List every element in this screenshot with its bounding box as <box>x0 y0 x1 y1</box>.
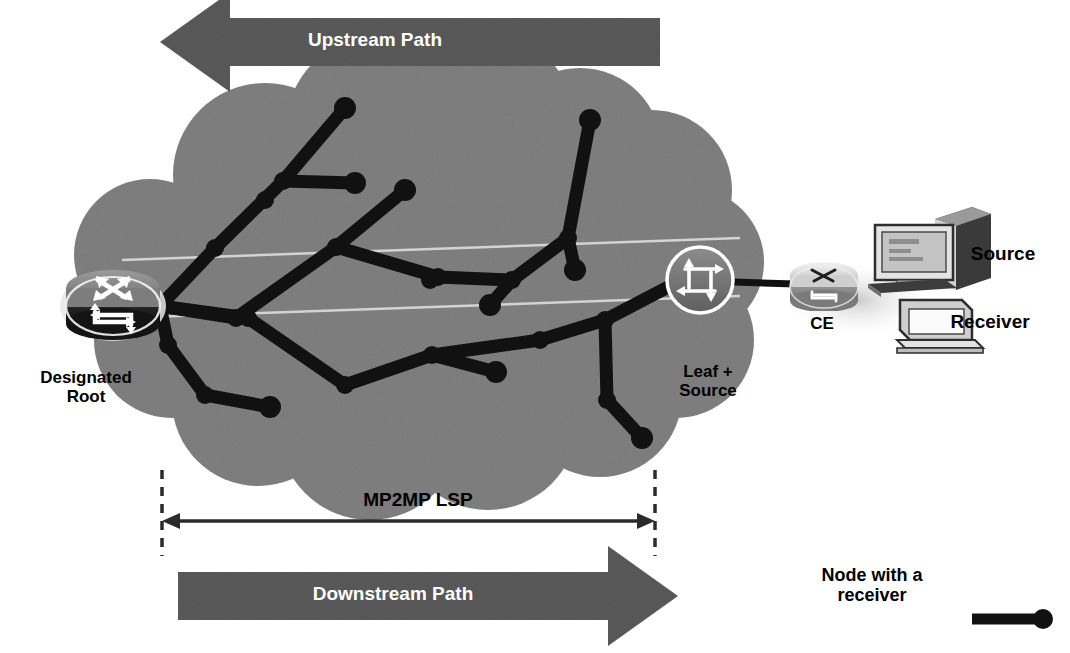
ce-label: CE <box>810 314 834 333</box>
leaf-source-label: Leaf + Source <box>679 362 737 400</box>
designated-root-router[interactable] <box>60 270 166 341</box>
source-label: Source <box>971 243 1035 264</box>
diagram-stage: Upstream Path Downstream Path MP2MP LSP … <box>0 0 1070 653</box>
diagram-canvas <box>0 0 1070 653</box>
ce-router[interactable] <box>790 262 858 312</box>
designated-root-label: Designated Root <box>40 368 132 406</box>
upstream-path-label: Upstream Path <box>308 29 442 50</box>
downstream-path-label: Downstream Path <box>313 583 473 604</box>
receiver-label: Receiver <box>950 311 1029 332</box>
leaf-source-circle <box>667 247 733 313</box>
pc-base-icon <box>897 340 983 353</box>
workstation-monitor-icon <box>875 225 953 285</box>
leaf-to-ce-link <box>734 282 795 284</box>
legend-label: Node with a receiver <box>821 565 922 605</box>
mp2mp-lsp-label: MP2MP LSP <box>363 489 472 510</box>
legend-sample <box>972 609 1053 629</box>
leaf-source-node[interactable] <box>667 247 733 313</box>
